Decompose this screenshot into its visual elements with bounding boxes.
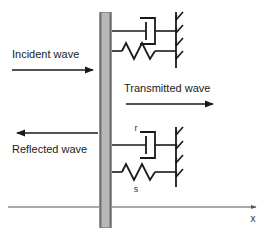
x-axis: x xyxy=(8,207,256,224)
spring-symbol-label: s xyxy=(134,184,139,194)
reflected-wave-group: Reflected wave xyxy=(12,133,98,155)
upper-assembly xyxy=(112,12,183,68)
diagram-canvas: x xyxy=(0,0,272,239)
dashpot-symbol-label: r xyxy=(135,123,138,133)
transmitted-wave-label: Transmitted wave xyxy=(124,82,210,94)
transmitted-wave-group: Transmitted wave xyxy=(124,82,213,104)
x-axis-label: x xyxy=(251,213,256,224)
lower-ground-hatching xyxy=(176,127,183,177)
upper-spring-coil xyxy=(122,43,155,59)
incident-wave-label: Incident wave xyxy=(12,48,79,60)
lower-assembly: r s xyxy=(112,123,183,194)
upper-ground-hatching xyxy=(176,12,183,59)
reflected-wave-label: Reflected wave xyxy=(12,143,87,155)
incident-wave-group: Incident wave xyxy=(12,48,93,70)
lower-spring-coil xyxy=(122,164,155,180)
interface-barrier xyxy=(99,12,112,228)
wave-interface-diagram: x xyxy=(0,0,272,239)
